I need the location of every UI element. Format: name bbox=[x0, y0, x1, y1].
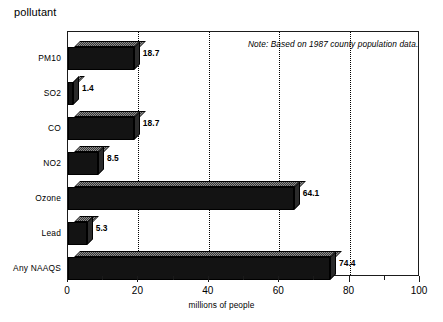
x-axis-tick bbox=[278, 276, 279, 282]
bar bbox=[68, 41, 140, 70]
bar bbox=[68, 146, 104, 175]
y-axis-tick-label: Lead bbox=[0, 228, 61, 238]
gridline bbox=[279, 32, 280, 275]
x-axis-tick-label: 100 bbox=[411, 285, 428, 296]
bar bbox=[68, 251, 336, 280]
bar-side-face bbox=[134, 111, 140, 140]
bar-value-label: 18.7 bbox=[143, 118, 160, 128]
y-axis-tick-label: NO2 bbox=[0, 158, 61, 168]
bar-chart: pollutant Note: Based on 1987 county pop… bbox=[0, 0, 443, 322]
bar-value-label: 1.4 bbox=[82, 83, 94, 93]
bar-value-label: 8.5 bbox=[107, 153, 119, 163]
y-axis-tick-label: PM10 bbox=[0, 53, 61, 63]
bar-value-label: 74.4 bbox=[339, 258, 356, 268]
x-axis-minor-tick bbox=[173, 276, 174, 280]
x-axis-tick bbox=[67, 276, 68, 282]
bar-front-face bbox=[68, 222, 87, 245]
bar-front-face bbox=[68, 82, 73, 105]
x-axis-tick-label: 80 bbox=[343, 285, 354, 296]
bar bbox=[68, 111, 140, 140]
x-axis-tick bbox=[419, 276, 420, 282]
x-axis-title: millions of people bbox=[0, 300, 443, 310]
bar-side-face bbox=[294, 181, 300, 210]
bar-front-face bbox=[68, 257, 330, 280]
gridline bbox=[209, 32, 210, 275]
bar-side-face bbox=[134, 41, 140, 70]
bar-side-face bbox=[73, 76, 79, 105]
bar-side-face bbox=[87, 216, 93, 245]
bar-front-face bbox=[68, 117, 134, 140]
x-axis-minor-tick bbox=[102, 276, 103, 280]
x-axis-tick-label: 0 bbox=[64, 285, 70, 296]
y-axis-tick-label: Any NAAQS bbox=[0, 263, 61, 273]
bar-front-face bbox=[68, 47, 134, 70]
x-axis-tick bbox=[349, 276, 350, 282]
y-axis-tick-label: SO2 bbox=[0, 88, 61, 98]
x-axis-minor-tick bbox=[243, 276, 244, 280]
bar-front-face bbox=[68, 152, 98, 175]
x-axis-tick-label: 60 bbox=[273, 285, 284, 296]
x-axis-minor-tick bbox=[384, 276, 385, 280]
x-axis-tick bbox=[208, 276, 209, 282]
x-axis-tick-label: 40 bbox=[202, 285, 213, 296]
x-axis-minor-tick bbox=[313, 276, 314, 280]
gridline bbox=[350, 32, 351, 275]
bar bbox=[68, 76, 79, 105]
bar bbox=[68, 216, 93, 245]
x-axis-tick-label: 20 bbox=[132, 285, 143, 296]
bar-side-face bbox=[330, 251, 336, 280]
y-axis-tick-label: Ozone bbox=[0, 193, 61, 203]
bar-side-face bbox=[98, 146, 104, 175]
y-axis-tick-label: CO bbox=[0, 123, 61, 133]
chart-annotation: Note: Based on 1987 county population da… bbox=[248, 39, 418, 49]
bar-value-label: 64.1 bbox=[303, 188, 320, 198]
bar-front-face bbox=[68, 187, 294, 210]
bar-value-label: 18.7 bbox=[143, 48, 160, 58]
y-axis-title: pollutant bbox=[14, 6, 57, 18]
x-axis-tick bbox=[137, 276, 138, 282]
plot-area: Note: Based on 1987 county population da… bbox=[67, 31, 419, 276]
bar bbox=[68, 181, 300, 210]
bar-value-label: 5.3 bbox=[96, 223, 108, 233]
